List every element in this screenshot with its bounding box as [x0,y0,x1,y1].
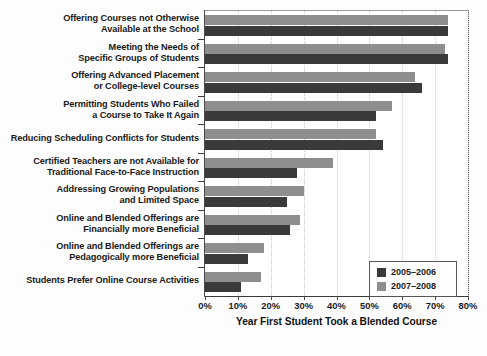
y-axis-tick [198,153,204,154]
bar-2005-2006 [205,197,287,207]
x-axis-tick-label: 70% [426,300,445,311]
category-label: Permitting Students Who Faileda Course t… [1,99,199,121]
y-axis-tick [198,67,204,68]
gridline [468,11,470,296]
bar-2005-2006 [205,83,422,93]
category-label: Reducing Scheduling Conflicts for Studen… [1,133,199,144]
category-label-line: or College-level Courses [1,81,199,92]
category-label-line: Addressing Growing Populations [1,184,199,195]
plot-area [205,10,469,297]
bar-2005-2006 [205,26,448,36]
legend-item: 2005–2006 [370,265,456,279]
y-axis-tick [198,238,204,239]
category-label-line: Offering Courses not Otherwise [1,13,199,24]
bar-2005-2006 [205,111,376,121]
category-label: Offering Courses not OtherwiseAvailable … [1,13,199,35]
category-label-line: Traditional Face-to-Face Instruction [1,167,199,178]
category-label-line: Certified Teachers are not Available for [1,156,199,167]
category-label-line: Offering Advanced Placement [1,70,199,81]
bar-2005-2006 [205,168,297,178]
category-label: Online and Blended Offerings arePedagogi… [1,241,199,263]
x-axis-tick-label: 50% [360,300,379,311]
category-label: Meeting the Needs ofSpecific Groups of S… [1,42,199,64]
category-label-line: Permitting Students Who Failed [1,99,199,110]
x-axis-tick-label: 10% [228,300,247,311]
bar-2007-2008 [205,158,333,168]
category-axis-labels: Offering Courses not OtherwiseAvailable … [0,10,203,295]
bar-2007-2008 [205,101,392,111]
bar-2007-2008 [205,215,300,225]
legend-swatch-icon [377,268,386,277]
x-axis-title: Year First Student Took a Blended Course [205,316,468,327]
bar-2007-2008 [205,44,445,54]
category-label: Certified Teachers are not Available for… [1,156,199,178]
category-label-line: a Course to Take It Again [1,110,199,121]
category-label: Online and Blended Offerings areFinancia… [1,213,199,235]
y-axis-tick [198,210,204,211]
category-label-line: Online and Blended Offerings are [1,241,199,252]
x-axis-tick-label: 40% [327,300,346,311]
bar-2007-2008 [205,272,261,282]
x-axis-tick-label: 20% [261,300,280,311]
bar-2007-2008 [205,186,304,196]
bar-2007-2008 [205,129,376,139]
bar-2005-2006 [205,140,383,150]
bar-chart: Offering Courses not OtherwiseAvailable … [0,0,487,356]
y-axis-tick [198,124,204,125]
category-label-line: and Limited Space [1,195,199,206]
x-axis-tick-label: 0% [198,300,212,311]
category-label-line: Reducing Scheduling Conflicts for Studen… [1,133,199,144]
bar-2005-2006 [205,254,248,264]
category-label: Offering Advanced Placementor College-le… [1,70,199,92]
bar-2007-2008 [205,15,448,25]
category-label: Students Prefer Online Course Activities [1,275,199,286]
legend-item: 2007–2008 [370,279,456,293]
bar-2007-2008 [205,243,264,253]
y-axis-tick [198,181,204,182]
bar-2007-2008 [205,72,415,82]
category-label-line: Financially more Beneficial [1,224,199,235]
bar-2005-2006 [205,54,448,64]
bar-2005-2006 [205,225,290,235]
y-axis-tick [198,267,204,268]
category-label-line: Online and Blended Offerings are [1,213,199,224]
y-axis-tick [198,96,204,97]
bar-2005-2006 [205,282,241,292]
chart-legend: 2005–2006 2007–2008 [369,261,457,297]
x-axis-tick-label: 60% [393,300,412,311]
category-label: Addressing Growing Populationsand Limite… [1,184,199,206]
y-axis-tick [198,39,204,40]
category-label-line: Meeting the Needs of [1,42,199,53]
legend-item-label: 2007–2008 [391,281,436,291]
category-label-line: Available at the School [1,24,199,35]
category-label-line: Pedagogically more Beneficial [1,252,199,263]
legend-item-label: 2005–2006 [391,267,436,277]
legend-swatch-icon [377,282,386,291]
x-axis-tick-label: 30% [294,300,313,311]
category-label-line: Students Prefer Online Course Activities [1,275,199,286]
category-label-line: Specific Groups of Students [1,53,199,64]
x-axis-tick-label: 80% [459,300,478,311]
